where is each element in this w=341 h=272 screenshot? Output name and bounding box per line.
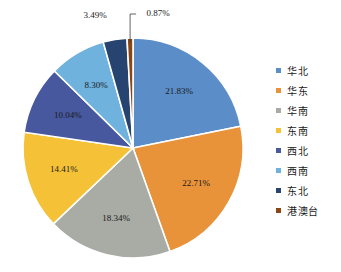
legend-item-label: 东北 xyxy=(287,183,308,198)
legend-item[interactable]: 华北 xyxy=(276,60,340,80)
legend-swatch-icon xyxy=(276,108,281,113)
legend-swatch-icon xyxy=(276,128,281,133)
legend-item[interactable]: 西南 xyxy=(276,160,340,180)
legend-item[interactable]: 华东 xyxy=(276,80,340,100)
legend-item[interactable]: 港澳台 xyxy=(276,200,340,220)
pie-slices-group xyxy=(23,38,243,258)
legend-swatch-icon xyxy=(276,148,281,153)
legend-item-label: 西南 xyxy=(287,163,308,178)
legend-item-label: 华东 xyxy=(287,83,308,98)
pie-value-label: 18.34% xyxy=(102,213,130,223)
legend-item[interactable]: 东南 xyxy=(276,120,340,140)
legend-item[interactable]: 华南 xyxy=(276,100,340,120)
pie-value-label: 10.04% xyxy=(54,110,82,120)
legend-swatch-icon xyxy=(276,168,281,173)
legend-item-label: 港澳台 xyxy=(287,203,319,218)
legend-swatch-icon xyxy=(276,88,281,93)
pie-value-label: 8.30% xyxy=(84,80,108,90)
legend-item[interactable]: 西北 xyxy=(276,140,340,160)
legend-item-label: 东南 xyxy=(287,123,308,138)
legend-item-label: 华北 xyxy=(287,63,308,78)
pie-value-label: 3.49% xyxy=(83,10,107,20)
pie-chart-figure: 21.83%22.71%18.34%14.41%10.04%8.30%3.49%… xyxy=(0,0,341,272)
pie-value-label: 14.41% xyxy=(50,164,78,174)
pie-value-label: 22.71% xyxy=(182,178,210,188)
legend-item[interactable]: 东北 xyxy=(276,180,340,200)
pie-value-label-callout: 0.87% xyxy=(146,8,170,18)
legend-swatch-icon xyxy=(276,208,281,213)
legend-item-label: 华南 xyxy=(287,103,308,118)
legend-swatch-icon xyxy=(276,188,281,193)
legend-item-label: 西北 xyxy=(287,143,308,158)
chart-legend: 华北华东华南东南西北西南东北港澳台 xyxy=(276,60,340,220)
legend-swatch-icon xyxy=(276,68,281,73)
pie-value-label: 21.83% xyxy=(165,86,193,96)
